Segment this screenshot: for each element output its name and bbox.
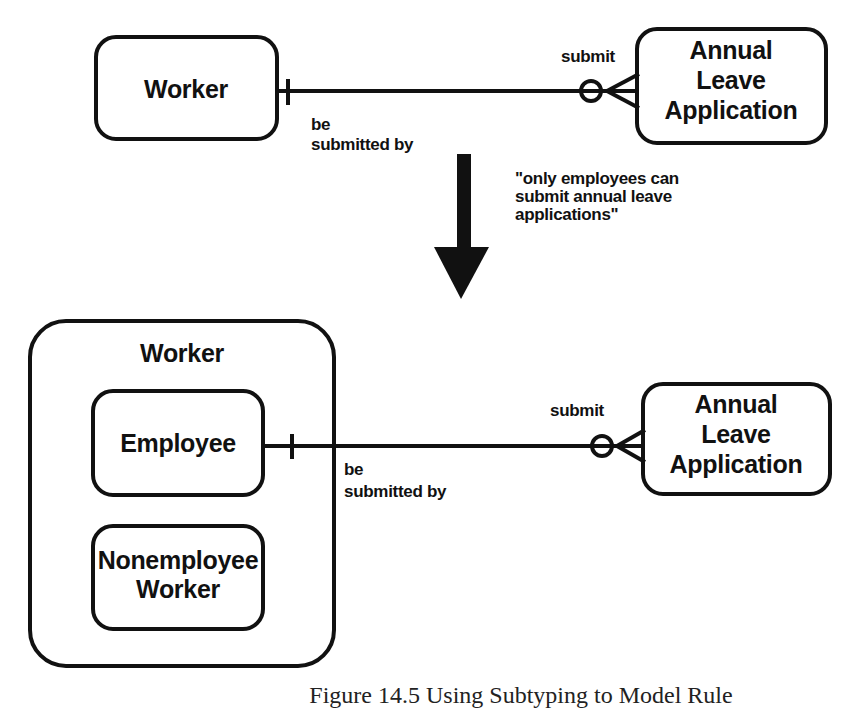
subtype-label: Employee: [120, 429, 236, 457]
entity-label-line: Annual: [690, 36, 773, 64]
relationship-label-submit: submit: [561, 47, 616, 66]
relationship-label-submitted-by: submitted by: [311, 135, 414, 154]
top-diagram: Worker Annual Leave Application submit b…: [96, 29, 826, 154]
entity-label-line: Application: [665, 96, 798, 124]
bottom-diagram: Worker Employee Nonemployee Worker Annua…: [30, 321, 830, 666]
entity-label: Worker: [144, 75, 228, 103]
rule-note-line: applications": [515, 205, 618, 224]
relationship-label-be: be: [311, 115, 330, 134]
subtype-label-line: Worker: [136, 575, 220, 603]
entity-label-line: Leave: [696, 66, 766, 94]
entity-label-line: Leave: [701, 420, 771, 448]
relationship-label-submitted-by: submitted by: [344, 482, 447, 501]
entity-label-line: Annual: [695, 390, 778, 418]
supertype-label: Worker: [140, 339, 224, 367]
relationship-label-submit: submit: [550, 401, 605, 420]
relationship-line-top[interactable]: [277, 74, 639, 108]
subtype-nonemployee-worker[interactable]: Nonemployee Worker: [93, 526, 263, 629]
subtype-label-line: Nonemployee: [98, 546, 259, 574]
transformation: "only employees can submit annual leave …: [434, 154, 679, 299]
entity-worker-top[interactable]: Worker: [96, 37, 277, 139]
figure-caption: Figure 14.5 Using Subtyping to Model Rul…: [0, 682, 862, 709]
down-arrow-icon: [434, 154, 489, 299]
entity-annual-leave-application-bottom[interactable]: Annual Leave Application: [643, 384, 830, 494]
entity-annual-leave-application-top[interactable]: Annual Leave Application: [637, 29, 826, 143]
figure-caption-text: Figure 14.5 Using Subtyping to Model Rul…: [309, 682, 732, 708]
entity-label-line: Application: [670, 450, 803, 478]
relationship-label-be: be: [344, 460, 363, 479]
rule-note-line: submit annual leave: [515, 187, 672, 206]
subtype-employee[interactable]: Employee: [93, 391, 263, 495]
rule-note-line: "only employees can: [515, 169, 679, 188]
